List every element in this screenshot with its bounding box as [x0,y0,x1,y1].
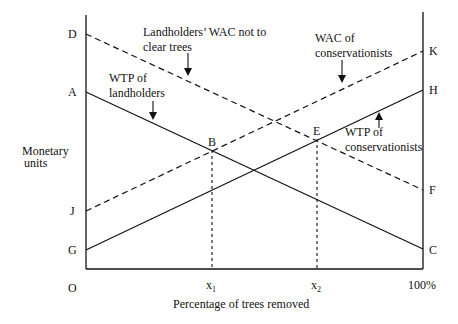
arrow-down-icon [149,101,157,120]
x-axis-label: Percentage of trees removed [173,297,309,311]
label-K: K [429,44,438,58]
arrow-down-icon [338,60,346,83]
tick-x1: x1 [206,278,216,294]
ann-wac-landholders-2: clear trees [143,40,192,54]
label-A: A [68,85,77,99]
ann-wtp-conservationists-1: WTP of [345,125,383,139]
label-H: H [429,83,438,97]
label-E: E [313,124,320,138]
label-J: J [70,204,75,218]
ann-wac-landholders-1: Landholders’ WAC not to [143,25,266,39]
diagram-canvas: D A J G O K H F C B E Monetary units x1 … [0,0,458,324]
label-C: C [429,243,437,257]
label-D: D [68,27,77,41]
ann-wac-conservationists-2: conservationists [315,46,393,60]
tick-x2: x2 [311,278,321,294]
ann-wtp-landholders-1: WTP of [109,71,147,85]
tick-100: 100% [408,278,436,292]
ann-wtp-landholders-2: landholders [109,86,165,100]
label-F: F [429,183,436,197]
arrow-down-icon [184,53,192,76]
y-axis-label-2: units [24,156,48,170]
label-B: B [208,135,216,149]
label-G: G [68,243,77,257]
ann-wac-conservationists-1: WAC of [315,31,355,45]
ann-wtp-conservationists-2: conservationists [345,140,423,154]
label-O: O [68,281,77,295]
